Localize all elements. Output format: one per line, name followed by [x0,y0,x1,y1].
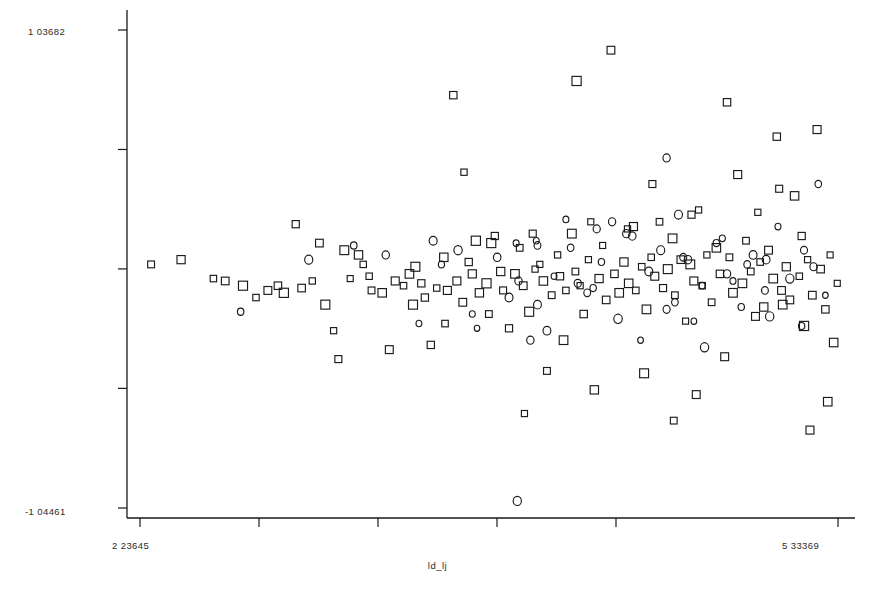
data-point-square [500,287,507,294]
x-axis-title: ld_lj [0,560,875,571]
data-point-square [809,291,817,299]
data-point-square [450,92,457,99]
data-point-square [670,417,677,424]
data-point-circle [590,285,596,292]
data-point-square [471,236,480,245]
data-point-square [683,318,689,324]
data-point-square [638,264,645,271]
data-point-square [738,279,747,288]
data-point-square [660,285,667,292]
data-point-square [177,256,185,264]
data-point-circle [645,267,653,276]
data-point-square [331,328,337,334]
data-point-square [648,254,654,260]
axes [127,10,855,518]
data-point-square [292,221,299,228]
data-point-square [221,277,229,285]
data-point-square [686,260,695,269]
data-point-square [798,232,805,239]
data-point-square [486,311,493,318]
data-point-square [461,169,467,175]
data-point-square [817,265,825,273]
data-point-square [773,133,780,140]
data-point-square [822,306,829,313]
data-point-square [805,257,811,263]
data-point-square [525,307,534,316]
data-point-square [519,282,527,290]
data-point-square [567,229,576,238]
data-point-square [321,300,330,309]
data-point-circle [493,253,501,261]
data-point-circle [749,251,757,260]
data-point-square [620,258,628,266]
data-point-circle [738,303,744,310]
data-point-circle [534,300,542,309]
data-point-circle [700,343,708,352]
x-axis-max-tick-label: 5 33369 [782,540,819,551]
data-point-square [497,267,505,275]
data-point-square [672,292,679,299]
data-point-circle [513,496,521,505]
data-point-circle [608,218,615,226]
x-axis-min-tick-label: 2 23645 [112,540,149,551]
data-point-circle [237,308,243,315]
data-point-square [656,219,663,226]
data-point-square [366,273,372,279]
data-point-square [778,287,786,295]
data-point-square [378,289,386,297]
data-point-square [335,356,342,363]
data-point-square [475,289,483,297]
data-point-square [554,252,560,258]
data-point-square [238,281,247,290]
data-point-circle [429,236,437,245]
data-point-square [572,268,579,275]
data-point-circle [574,279,581,287]
data-point-square [264,287,272,295]
data-point-circle [680,253,687,261]
data-point-circle [454,246,462,255]
data-point-square [440,253,448,261]
data-point-square [782,263,790,271]
data-point-square [716,270,723,277]
data-point-circle [598,259,604,266]
data-point-square [721,353,729,361]
data-point-square [453,277,461,285]
data-point-square [253,294,259,300]
data-point-square [298,284,306,292]
data-point-square [806,426,814,434]
data-point-square [704,252,710,258]
data-point-circle [563,216,569,223]
data-point-circle [614,314,622,323]
data-point-square [588,219,594,225]
data-point-circle [382,251,389,259]
data-point-square [544,368,551,375]
data-point-square [607,46,615,54]
data-point-square [827,252,833,258]
data-point-square [418,280,425,287]
data-point-square [690,277,698,285]
data-point-square [640,369,649,378]
data-point-square [309,278,315,284]
data-point-square [611,270,618,277]
data-point-circle [416,320,422,326]
data-point-square [688,211,695,218]
data-point-square [482,279,491,288]
data-point-square [615,289,624,298]
data-point-square [468,270,476,278]
data-point-square [340,246,349,255]
data-points [148,46,841,505]
data-point-circle [691,318,697,324]
data-point-square [559,336,568,345]
data-point-square [729,288,738,297]
data-point-circle [815,180,822,187]
data-point-square [585,257,591,263]
data-point-square [649,181,656,188]
data-point-square [726,254,733,261]
data-point-square [360,261,366,267]
data-point-circle [474,325,480,331]
data-point-circle [305,255,313,264]
data-point-square [385,346,393,354]
data-point-square [391,277,399,285]
data-point-circle [730,278,736,285]
data-point-circle [719,235,725,242]
